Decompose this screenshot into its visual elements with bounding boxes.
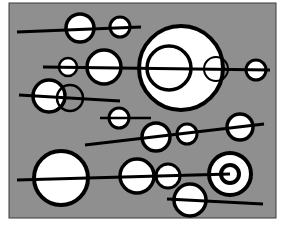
- abstract-circles-artwork: [0, 0, 282, 225]
